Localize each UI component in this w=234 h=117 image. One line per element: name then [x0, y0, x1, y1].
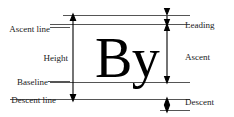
label-height: Height	[0, 53, 68, 63]
label-ascent-line: Ascent line	[0, 24, 50, 34]
sample-glyph-text: By	[95, 30, 159, 86]
font-metrics-diagram: By Ascent line Height Baseline Descent l…	[0, 0, 234, 117]
label-descent-line: Descent line	[0, 95, 56, 105]
label-descent: Descent	[185, 97, 214, 107]
descent-measure-arrow	[165, 98, 170, 112]
ascent-measure-arrow	[165, 24, 170, 83]
height-measure-arrow	[70, 14, 75, 101]
label-leading: Leading	[185, 20, 215, 30]
label-baseline: Baseline	[0, 77, 48, 87]
label-ascent: Ascent	[185, 52, 210, 62]
